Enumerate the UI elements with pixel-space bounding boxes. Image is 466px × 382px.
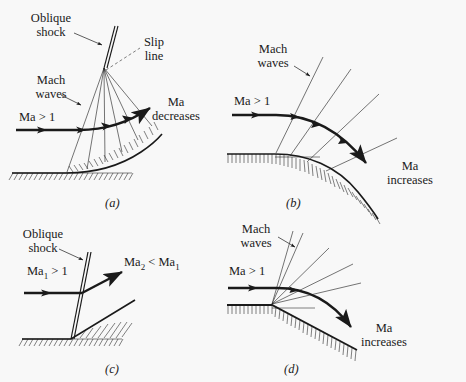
panel-b-mach-waves-label: Mach waves — [249, 43, 297, 70]
panel-a-mach-waves — [67, 68, 152, 172]
panel-d-outflow-label: Ma increases — [352, 322, 416, 349]
supersonic-flow-figure: Oblique shock Slip line Mach waves Ma > … — [0, 0, 466, 382]
panel-b-inflow-label: Ma > 1 — [234, 95, 270, 109]
panel-c-letter: (c) — [105, 362, 119, 377]
panel-b-letter: (b) — [286, 196, 301, 211]
panel-a-slip-line-label: Slip line — [137, 36, 171, 63]
panel-a-outflow-label: Ma decreases — [143, 96, 209, 123]
panel-d-streamline — [228, 288, 351, 327]
panel-a-mach-waves-label: Mach waves — [27, 74, 75, 101]
panel-c-streamline-downstream — [82, 272, 122, 293]
panel-d-mach-waves-leader — [278, 237, 295, 247]
panel-d-inflow-label: Ma > 1 — [229, 265, 265, 279]
panel-c-outflow-label: Ma2 < Ma1 — [124, 256, 180, 274]
panel-a-oblique-shock-label: Oblique shock — [20, 12, 82, 39]
panel-b-mach-waves — [276, 57, 397, 171]
panel-c-inflow-label: Ma1 > 1 — [27, 265, 68, 283]
panel-b-wall — [227, 154, 380, 224]
panel-c-oblique-shock-label: Oblique shock — [18, 228, 68, 255]
panel-d-linework — [227, 231, 361, 361]
panel-d-mach-waves-label: Mach waves — [232, 223, 280, 250]
panel-d-wall — [227, 305, 357, 361]
panel-d-hatching — [228, 305, 356, 361]
panel-b-linework — [227, 57, 397, 224]
panel-a-oblique-shock — [104, 26, 118, 68]
panel-d-mach-waves — [272, 231, 361, 304]
panel-c-oblique-shock — [71, 252, 91, 339]
panel-a-letter: (a) — [105, 196, 120, 211]
panel-d-letter: (d) — [284, 362, 299, 377]
panel-a-inflow-label: Ma > 1 — [19, 111, 55, 125]
panel-b-outflow-label: Ma increases — [378, 160, 442, 187]
panel-b-hatching — [228, 154, 380, 224]
